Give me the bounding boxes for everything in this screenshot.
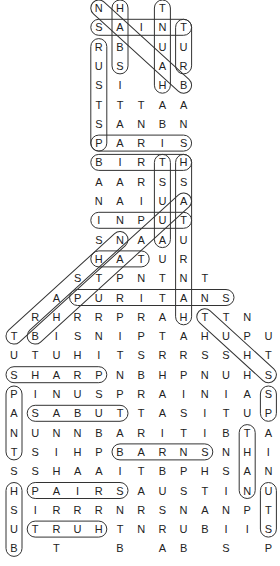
grid-letter[interactable]: A [112, 174, 128, 190]
grid-letter[interactable]: H [48, 309, 64, 325]
grid-letter[interactable]: A [48, 367, 64, 383]
grid-letter[interactable]: H [91, 521, 107, 537]
grid-letter[interactable]: P [239, 502, 255, 518]
grid-letter[interactable]: T [154, 270, 170, 286]
grid-letter[interactable]: A [48, 405, 64, 421]
grid-letter[interactable]: R [154, 347, 170, 363]
grid-letter[interactable]: S [91, 19, 107, 35]
grid-letter[interactable]: R [27, 309, 43, 325]
grid-letter[interactable]: U [260, 483, 276, 499]
grid-letter[interactable]: I [197, 425, 213, 441]
grid-letter[interactable]: S [112, 483, 128, 499]
grid-letter[interactable]: T [260, 502, 276, 518]
grid-letter[interactable]: A [154, 405, 170, 421]
grid-letter[interactable]: N [176, 502, 192, 518]
grid-letter[interactable]: S [91, 116, 107, 132]
grid-letter[interactable]: A [154, 97, 170, 113]
grid-letter[interactable]: A [239, 463, 255, 479]
grid-letter[interactable]: N [91, 0, 107, 16]
grid-letter[interactable]: U [218, 367, 234, 383]
grid-letter[interactable]: I [27, 386, 43, 402]
grid-letter[interactable]: N [176, 444, 192, 460]
grid-letter[interactable]: N [133, 270, 149, 286]
grid-letter[interactable]: A [112, 193, 128, 209]
grid-letter[interactable]: A [112, 135, 128, 151]
grid-letter[interactable]: A [197, 502, 213, 518]
grid-letter[interactable]: T [27, 347, 43, 363]
grid-letter[interactable]: P [260, 540, 276, 556]
grid-letter[interactable]: A [154, 309, 170, 325]
grid-letter[interactable]: R [70, 309, 86, 325]
grid-letter[interactable]: S [176, 405, 192, 421]
grid-letter[interactable]: T [133, 405, 149, 421]
grid-letter[interactable]: R [133, 386, 149, 402]
grid-letter[interactable]: T [154, 290, 170, 306]
grid-letter[interactable]: S [176, 483, 192, 499]
grid-letter[interactable]: P [176, 463, 192, 479]
grid-letter[interactable]: H [91, 251, 107, 267]
grid-letter[interactable]: T [91, 270, 107, 286]
grid-letter[interactable]: A [112, 251, 128, 267]
grid-letter[interactable]: U [27, 425, 43, 441]
grid-letter[interactable]: S [218, 290, 234, 306]
grid-letter[interactable]: U [154, 483, 170, 499]
grid-letter[interactable]: T [154, 0, 170, 16]
grid-letter[interactable]: I [112, 463, 128, 479]
grid-letter[interactable]: U [154, 212, 170, 228]
grid-letter[interactable]: I [112, 154, 128, 170]
grid-letter[interactable]: H [176, 154, 192, 170]
grid-letter[interactable]: S [91, 77, 107, 93]
grid-letter[interactable]: T [112, 347, 128, 363]
grid-letter[interactable]: R [176, 347, 192, 363]
grid-letter[interactable]: R [133, 425, 149, 441]
grid-letter[interactable]: B [91, 154, 107, 170]
grid-letter[interactable]: I [176, 386, 192, 402]
grid-letter[interactable]: A [70, 463, 86, 479]
grid-letter[interactable]: U [176, 39, 192, 55]
grid-letter[interactable]: S [176, 174, 192, 190]
grid-letter[interactable]: S [27, 405, 43, 421]
grid-letter[interactable]: N [133, 521, 149, 537]
grid-letter[interactable]: N [48, 425, 64, 441]
grid-letter[interactable]: H [154, 367, 170, 383]
grid-letter[interactable]: S [154, 502, 170, 518]
grid-letter[interactable]: T [112, 97, 128, 113]
grid-letter[interactable]: S [27, 463, 43, 479]
grid-letter[interactable]: S [70, 328, 86, 344]
grid-letter[interactable]: S [6, 463, 22, 479]
grid-letter[interactable]: S [218, 347, 234, 363]
grid-letter[interactable]: U [239, 405, 255, 421]
grid-letter[interactable]: R [112, 290, 128, 306]
grid-letter[interactable]: P [27, 483, 43, 499]
grid-letter[interactable]: A [48, 483, 64, 499]
grid-letter[interactable]: A [239, 386, 255, 402]
grid-letter[interactable]: N [48, 386, 64, 402]
grid-letter[interactable]: A [112, 116, 128, 132]
grid-letter[interactable]: H [154, 77, 170, 93]
grid-letter[interactable]: P [70, 290, 86, 306]
grid-letter[interactable]: I [218, 521, 234, 537]
grid-letter[interactable]: P [260, 405, 276, 421]
grid-letter[interactable]: B [218, 425, 234, 441]
grid-letter[interactable]: I [27, 502, 43, 518]
grid-letter[interactable]: R [176, 251, 192, 267]
grid-letter[interactable]: T [112, 405, 128, 421]
grid-letter[interactable]: T [197, 270, 213, 286]
grid-letter[interactable]: U [70, 521, 86, 537]
grid-letter[interactable]: N [260, 463, 276, 479]
grid-letter[interactable]: I [133, 19, 149, 35]
grid-letter[interactable]: B [6, 540, 22, 556]
grid-letter[interactable]: B [154, 463, 170, 479]
grid-letter[interactable]: T [197, 309, 213, 325]
grid-letter[interactable]: S [133, 347, 149, 363]
grid-letter[interactable]: A [112, 19, 128, 35]
grid-letter[interactable]: B [176, 77, 192, 93]
grid-letter[interactable]: R [91, 309, 107, 325]
grid-letter[interactable]: T [260, 347, 276, 363]
grid-letter[interactable]: N [176, 270, 192, 286]
grid-letter[interactable]: S [91, 232, 107, 248]
grid-letter[interactable]: U [154, 39, 170, 55]
grid-letter[interactable]: N [197, 290, 213, 306]
grid-letter[interactable]: A [91, 463, 107, 479]
grid-letter[interactable]: A [154, 232, 170, 248]
